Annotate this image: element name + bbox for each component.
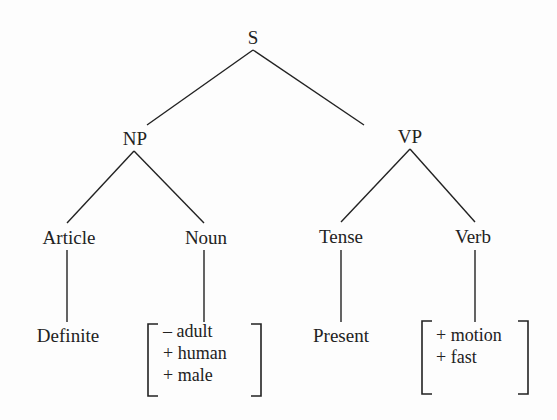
edge-np-noun — [134, 151, 204, 223]
noun-feature-male: + male — [163, 364, 227, 386]
node-s: S — [248, 28, 259, 47]
node-np: NP — [123, 129, 147, 148]
node-definite: Definite — [37, 326, 99, 345]
edge-np-article — [67, 151, 134, 223]
node-tense: Tense — [319, 227, 363, 246]
node-verb: Verb — [455, 227, 491, 246]
edge-vp-tense — [341, 149, 410, 222]
edge-s-np — [147, 50, 253, 125]
noun-feature-adult: – adult — [163, 320, 227, 342]
verb-feature-fast: + fast — [436, 346, 502, 368]
noun-feature-matrix: – adult + human + male — [163, 320, 227, 386]
noun-feature-human: + human — [163, 342, 227, 364]
noun-left-bracket — [148, 324, 158, 396]
node-vp: VP — [398, 127, 422, 146]
edge-vp-verb — [410, 149, 475, 222]
node-present: Present — [313, 326, 369, 345]
noun-right-bracket — [251, 324, 261, 396]
node-article: Article — [43, 228, 96, 247]
verb-feature-motion: + motion — [436, 324, 502, 346]
node-noun: Noun — [185, 228, 227, 247]
verb-right-bracket — [518, 321, 528, 394]
edge-s-vp — [253, 50, 364, 125]
verb-feature-matrix: + motion + fast — [436, 324, 502, 368]
verb-left-bracket — [422, 321, 432, 394]
